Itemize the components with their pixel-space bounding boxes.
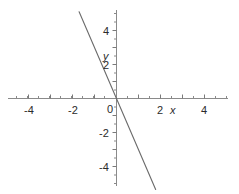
data-line-series-0 [79, 12, 156, 190]
cartesian-line-plot: -4 -2 0 2 4 4 2 -2 -4 x y [0, 0, 239, 194]
y-tick-label-neg4: -4 [99, 162, 109, 173]
x-tick-label-zero: 0 [107, 104, 113, 115]
x-tick-label-pos2: 2 [157, 105, 163, 116]
x-axis-name-label: x [170, 105, 176, 116]
axes-group [8, 10, 228, 186]
y-tick-label-neg2: -2 [99, 128, 109, 139]
plot-canvas [0, 0, 239, 194]
y-tick-label-pos4: 4 [103, 26, 109, 37]
x-tick-label-neg4: -4 [24, 105, 34, 116]
x-axis-minor-ticks [17, 96, 227, 98]
x-tick-label-pos4: 4 [201, 105, 207, 116]
y-axis-name-label: y [103, 51, 109, 62]
x-tick-label-neg2: -2 [68, 105, 78, 116]
